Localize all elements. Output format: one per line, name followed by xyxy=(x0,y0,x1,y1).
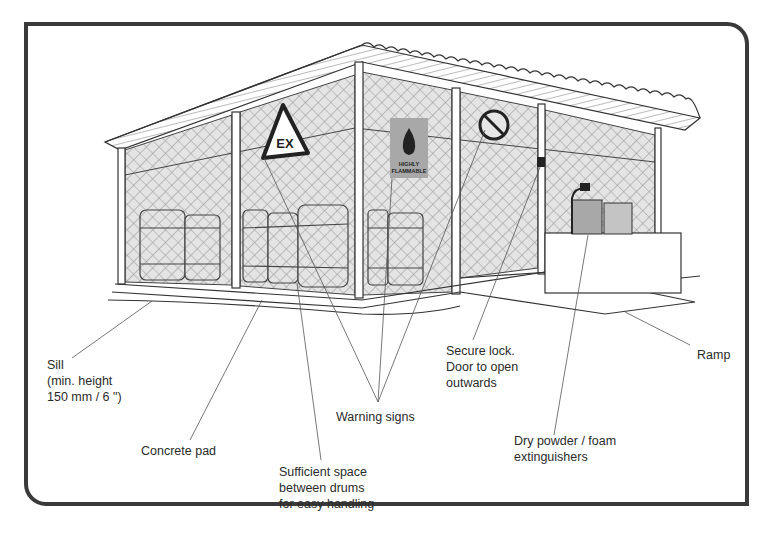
label-concrete-pad: Concrete pad xyxy=(141,443,216,459)
label-ramp: Ramp xyxy=(697,347,730,363)
label-secure-lock: Secure lock. Door to open outwards xyxy=(446,343,518,391)
label-sufficient-space: Sufficient space between drums for easy … xyxy=(279,464,374,512)
label-sill: Sill (min. height 150 mm / 6 ") xyxy=(47,357,122,405)
storage-cage-illustration: EX HIGHLY FLAMMABLE xyxy=(0,0,774,535)
svg-text:FLAMMABLE: FLAMMABLE xyxy=(392,168,427,174)
svg-text:EX: EX xyxy=(276,136,294,151)
flammable-warning-sign: HIGHLY FLAMMABLE xyxy=(390,118,428,178)
padlock-icon xyxy=(537,157,545,167)
label-extinguishers: Dry powder / foam extinguishers xyxy=(514,433,616,465)
drums xyxy=(140,205,423,287)
no-smoking-sign xyxy=(480,111,508,139)
svg-text:HIGHLY: HIGHLY xyxy=(399,161,420,167)
label-warning-signs: Warning signs xyxy=(336,409,415,425)
